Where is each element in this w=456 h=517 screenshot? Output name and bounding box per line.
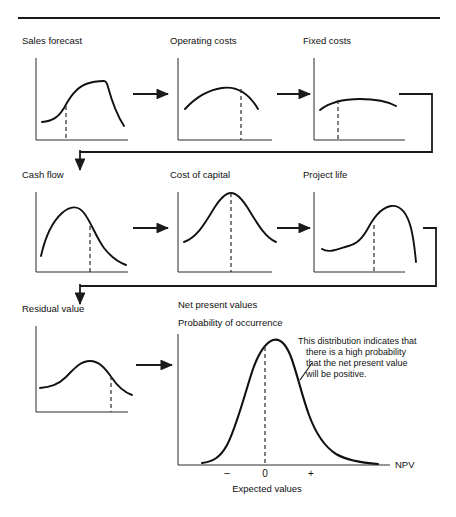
curve-fixed-costs bbox=[320, 99, 396, 110]
curve-residual-value bbox=[40, 361, 132, 395]
curve-operating-costs bbox=[185, 88, 258, 109]
npv-chart-title: Net present values bbox=[178, 299, 257, 310]
axes-sales-forecast bbox=[36, 58, 128, 140]
panel-title-cost-of-capital: Cost of capital bbox=[170, 169, 230, 180]
panel-title-sales-forecast: Sales forecast bbox=[22, 35, 83, 46]
panel-sales-forecast bbox=[36, 58, 128, 140]
axes-cost-of-capital bbox=[178, 192, 272, 272]
curve-cash-flow bbox=[41, 207, 126, 265]
panel-residual-value bbox=[36, 326, 132, 412]
npv-annotation: This distribution indicates that there i… bbox=[298, 336, 417, 380]
figure-canvas: Sales forecast Operating costs Fixed cos… bbox=[0, 0, 456, 517]
npv-tick-positive: + bbox=[308, 468, 314, 479]
axes-operating-costs bbox=[178, 58, 272, 140]
connector-row2-to-row3 bbox=[80, 228, 436, 286]
panel-fixed-costs bbox=[314, 58, 405, 140]
panel-title-operating-costs: Operating costs bbox=[170, 35, 237, 46]
panel-title-project-life: Project life bbox=[303, 169, 347, 180]
annotation-line-1: This distribution indicates that bbox=[298, 336, 417, 346]
panel-operating-costs bbox=[178, 58, 272, 140]
risk-simulation-diagram: Sales forecast Operating costs Fixed cos… bbox=[0, 0, 456, 517]
panel-cost-of-capital bbox=[178, 192, 276, 272]
npv-tick-negative: – bbox=[224, 467, 230, 478]
axes-residual-value bbox=[36, 326, 128, 412]
axes-cash-flow bbox=[36, 192, 128, 272]
axes-project-life bbox=[314, 192, 405, 272]
npv-axis-end-label: NPV bbox=[395, 459, 415, 470]
annotation-line-2: there is a high probability bbox=[306, 347, 407, 357]
curve-cost-of-capital bbox=[184, 193, 276, 242]
npv-tick-zero: 0 bbox=[262, 468, 268, 479]
curve-sales-forecast bbox=[42, 81, 124, 126]
panel-project-life bbox=[314, 192, 416, 272]
npv-chart-x-axis-label: Expected values bbox=[232, 483, 302, 494]
npv-chart-y-axis-label: Probability of occurrence bbox=[178, 317, 283, 328]
annotation-line-3: that the net present value bbox=[306, 358, 408, 368]
annotation-line-4: will be positive. bbox=[305, 369, 367, 379]
panel-title-fixed-costs: Fixed costs bbox=[303, 35, 351, 46]
curve-project-life bbox=[322, 206, 416, 262]
panel-title-cash-flow: Cash flow bbox=[22, 169, 64, 180]
connector-row1-to-row2 bbox=[80, 94, 432, 152]
panel-title-residual-value: Residual value bbox=[22, 303, 84, 314]
panel-cash-flow bbox=[36, 192, 128, 272]
